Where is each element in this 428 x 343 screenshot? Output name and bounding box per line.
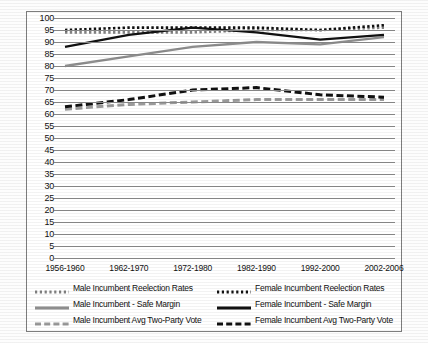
gridline [54, 114, 395, 115]
x-axis-labels: 1956-19601962-19701972-19801982-19901992… [54, 263, 395, 277]
y-axis-tick-label: 20 [44, 206, 54, 215]
gridline [54, 18, 395, 19]
y-axis-tick-label: 65 [44, 98, 54, 107]
y-axis-tick-label: 30 [44, 182, 54, 191]
gridline [54, 222, 395, 223]
y-axis-tick-label: 70 [44, 86, 54, 95]
x-axis-tick-label: 1956-1960 [46, 263, 85, 273]
gridline [54, 78, 395, 79]
chart-figure: 1009590858075706560555045403530252015105… [0, 0, 428, 343]
gridline [54, 174, 395, 175]
y-axis-tick-label: 95 [44, 26, 54, 35]
x-axis-tick-label: 1962-1970 [109, 263, 148, 273]
gridline [54, 66, 395, 67]
gridline [54, 102, 395, 103]
gridline [54, 198, 395, 199]
chart-legend: Male Incumbent Reelection Rates Female I… [34, 281, 394, 327]
y-axis-tick-label: 55 [44, 122, 54, 131]
y-axis-tick-label: 75 [44, 74, 54, 83]
legend-label: Male Incumbent Avg Two-Party Vote [73, 315, 201, 325]
legend-label: Male Incumbent Reelection Rates [73, 283, 193, 293]
legend-label: Male Incumbent - Safe Margin [73, 299, 180, 309]
gridline [54, 234, 395, 235]
gridline [54, 54, 395, 55]
gridline [54, 150, 395, 151]
legend-swatch-dashed-gray [34, 315, 70, 325]
y-axis-tick-label: 60 [44, 110, 54, 119]
legend-swatch-solid-black [216, 299, 252, 309]
y-axis-tick-label: 100 [40, 14, 54, 23]
legend-item-female-two-party-vote: Female Incumbent Avg Two-Party Vote [216, 313, 396, 327]
legend-swatch-dotted-gray [34, 283, 70, 293]
y-axis-tick-label: 35 [44, 170, 54, 179]
gridline [54, 210, 395, 211]
y-axis-tick-label: 40 [44, 158, 54, 167]
y-axis-tick-label: 90 [44, 38, 54, 47]
legend-label: Female Incumbent - Safe Margin [255, 299, 371, 309]
gridline [54, 126, 395, 127]
gridline [54, 162, 395, 163]
x-axis-tick-label: 1992-2000 [301, 263, 340, 273]
y-axis-tick-label: 85 [44, 50, 54, 59]
y-axis-labels: 1009590858075706560555045403530252015105… [26, 18, 54, 258]
x-axis-tick-label: 1982-1990 [237, 263, 276, 273]
legend-item-male-safe-margin: Male Incumbent - Safe Margin [34, 297, 214, 311]
x-axis-tick-label: 2002-2006 [365, 263, 404, 273]
legend-item-male-two-party-vote: Male Incumbent Avg Two-Party Vote [34, 313, 214, 327]
gridline [54, 246, 395, 247]
gridline [54, 42, 395, 43]
legend-swatch-solid-gray [34, 299, 70, 309]
plot-area [54, 18, 395, 258]
legend-item-female-reelection: Female Incumbent Reelection Rates [216, 281, 396, 295]
legend-swatch-dashed-black [216, 315, 252, 325]
gridline [54, 258, 395, 259]
y-axis-tick-label: 50 [44, 134, 54, 143]
y-axis-tick-label: 45 [44, 146, 54, 155]
y-axis-tick-label: 10 [44, 230, 54, 239]
y-axis-tick-label: 80 [44, 62, 54, 71]
gridline [54, 90, 395, 91]
legend-item-female-safe-margin: Female Incumbent - Safe Margin [216, 297, 396, 311]
legend-swatch-dotted-black [216, 283, 252, 293]
legend-item-male-reelection: Male Incumbent Reelection Rates [34, 281, 214, 295]
legend-label: Female Incumbent Reelection Rates [255, 283, 384, 293]
gridline [54, 30, 395, 31]
y-axis-tick-label: 15 [44, 218, 54, 227]
gridline [54, 186, 395, 187]
x-axis-tick-label: 1972-1980 [173, 263, 212, 273]
legend-label: Female Incumbent Avg Two-Party Vote [255, 315, 393, 325]
gridline [54, 138, 395, 139]
y-axis-tick-label: 25 [44, 194, 54, 203]
